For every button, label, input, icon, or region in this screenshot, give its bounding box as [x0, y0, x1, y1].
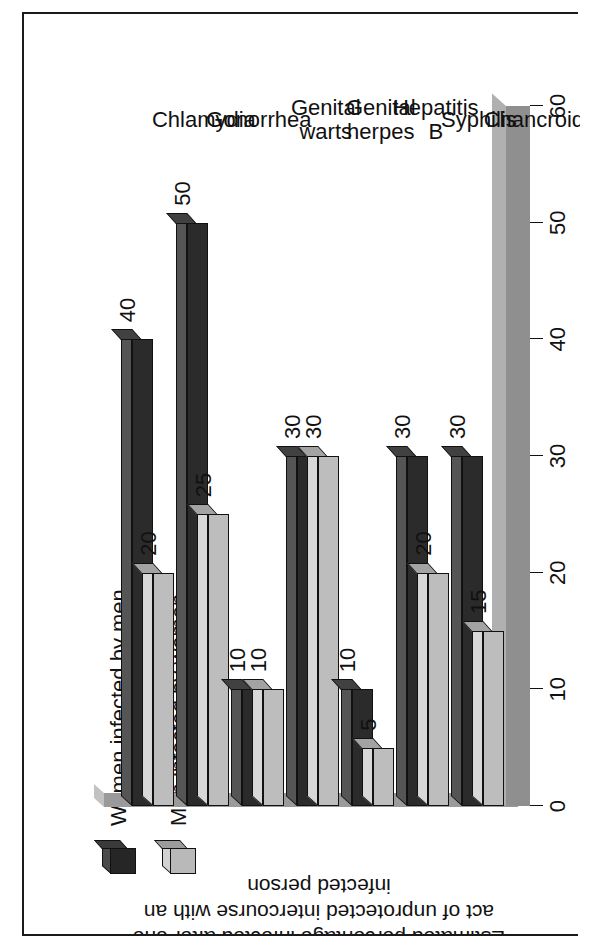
axis-tick — [530, 572, 543, 573]
y-axis-title-text: Estimated percentage infected after one … — [120, 873, 518, 934]
axis-tick — [530, 105, 543, 106]
axis-tick-label: 0 — [547, 800, 569, 812]
axis-tick — [530, 805, 543, 806]
category-label: Chancroid — [474, 108, 580, 132]
axis-tick — [530, 338, 543, 339]
rotated-chart-wrapper: Women infected by men Men infected by wo… — [24, 14, 580, 934]
value-axis-band — [506, 106, 530, 806]
figure-frame: Women infected by men Men infected by wo… — [22, 12, 578, 936]
axis-tick — [530, 688, 543, 689]
page-root: Women infected by men Men infected by wo… — [0, 0, 600, 949]
light-cube-icon — [162, 840, 196, 874]
axis-tick-label: 30 — [547, 444, 569, 468]
axis-tick-label: 10 — [547, 677, 569, 701]
axis-tick-label: 50 — [547, 210, 569, 234]
dark-cube-icon — [102, 840, 136, 874]
axis-tick — [530, 222, 543, 223]
chart-stage: Women infected by men Men infected by wo… — [24, 14, 580, 934]
y-axis-title: Estimated percentage infected after one … — [120, 892, 518, 932]
axis-tick-label: 40 — [547, 327, 569, 351]
axis-tick — [530, 455, 543, 456]
plot-area: 402050251010303010530203015 010203040506… — [120, 106, 518, 806]
axis-tick-label: 20 — [547, 560, 569, 584]
category-axis: ChlamydiaGonorrheaGenital wartsGenital h… — [120, 106, 506, 806]
